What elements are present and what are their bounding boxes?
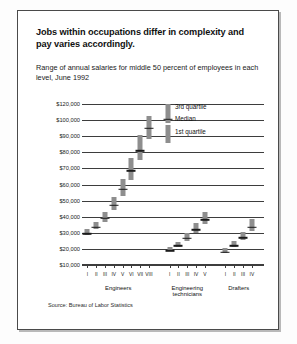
quartile-range-bar <box>202 212 207 224</box>
y-axis-label: $100,000 <box>36 117 80 123</box>
x-axis-tick <box>131 265 132 268</box>
median-marker <box>136 150 145 152</box>
legend-median-marker <box>164 118 173 120</box>
gridline <box>82 185 264 186</box>
x-axis-tick-label: V <box>121 272 124 277</box>
x-axis-tick-label: V <box>203 272 206 277</box>
median-marker <box>109 205 118 207</box>
x-axis-tick-label: VII <box>137 272 143 277</box>
x-axis-tick-label: II <box>233 272 236 277</box>
median-marker <box>83 233 92 235</box>
legend-range-bar <box>166 104 171 123</box>
x-axis-tick-label: I <box>225 272 226 277</box>
gridline <box>82 168 264 169</box>
x-axis-tick-label: I <box>87 272 88 277</box>
quartile-range-bar <box>111 197 116 211</box>
x-axis-tick <box>123 265 124 268</box>
y-axis-label: $80,000 <box>36 149 80 155</box>
legend-median: Median <box>175 114 196 121</box>
chart-plot: $120,000$100,000$90,000$80,000$70,000$60… <box>36 104 264 274</box>
x-axis-tick <box>96 265 97 268</box>
x-axis-group-label: Drafters <box>228 285 249 292</box>
x-axis-tick-label: I <box>169 272 170 277</box>
median-marker <box>144 127 153 129</box>
median-marker <box>221 251 230 253</box>
y-axis-label: $30,000 <box>36 230 80 236</box>
median-marker <box>165 250 174 252</box>
x-axis-group-label: Engineers <box>105 285 132 292</box>
gridline <box>82 120 264 121</box>
median-marker <box>174 245 183 247</box>
source-note: Source: Bureau of Labor Statistics <box>48 302 133 308</box>
median-marker <box>192 229 201 231</box>
median-marker <box>127 170 136 172</box>
x-axis-tick-label: VIII <box>145 272 152 277</box>
x-axis-tick-label: IV <box>250 272 255 277</box>
y-axis-label: $70,000 <box>36 165 80 171</box>
legend-range-bar-lower <box>166 125 171 143</box>
x-axis-tick <box>87 265 88 268</box>
quartile-range-bar <box>120 179 125 196</box>
y-axis-label: $90,000 <box>36 133 80 139</box>
x-axis-tick <box>114 265 115 268</box>
x-axis-group-label: Engineeringtechnicians <box>172 285 203 298</box>
x-axis-tick-label: III <box>185 272 189 277</box>
plot-axis-area: $120,000$100,000$90,000$80,000$70,000$60… <box>82 104 264 265</box>
chart-subtitle: Range of annual salaries for middle 50 p… <box>36 63 264 82</box>
x-axis-tick <box>252 265 253 268</box>
x-axis-tick <box>105 265 106 268</box>
x-axis-baseline <box>82 264 264 265</box>
y-axis-label: $20,000 <box>36 246 80 252</box>
x-axis-tick <box>225 265 226 268</box>
x-axis-tick-label: II <box>95 272 98 277</box>
gridline <box>82 233 264 234</box>
gridline <box>82 265 264 266</box>
x-axis-tick-label: II <box>177 272 180 277</box>
chart-panel: Jobs within occupations differ in comple… <box>17 10 279 330</box>
y-axis-label: $40,000 <box>36 214 80 220</box>
median-marker <box>118 189 127 191</box>
median-marker <box>200 219 209 221</box>
legend-third-quartile: 3rd quartile <box>175 102 207 109</box>
median-marker <box>92 226 101 228</box>
y-axis-label: $120,000 <box>36 101 80 107</box>
median-marker <box>247 226 256 228</box>
x-axis-tick-label: VI <box>129 272 134 277</box>
y-axis-label: $50,000 <box>36 198 80 204</box>
quartile-range-bar <box>129 158 134 180</box>
x-axis-tick-label: IV <box>112 272 117 277</box>
median-marker <box>230 245 239 247</box>
x-axis-tick <box>196 265 197 268</box>
x-axis-tick <box>205 265 206 268</box>
median-marker <box>101 217 110 219</box>
x-axis-tick <box>234 265 235 268</box>
x-axis-tick <box>140 265 141 268</box>
median-marker <box>239 237 248 239</box>
quartile-range-bar <box>249 219 254 231</box>
page-title: Jobs within occupations differ in comple… <box>36 27 262 50</box>
x-axis-tick-label: III <box>103 272 107 277</box>
quartile-range-bar <box>138 135 143 161</box>
y-axis-label: $10,000 <box>36 262 80 268</box>
legend-first-quartile: 1st quartile <box>175 128 206 135</box>
x-axis-tick <box>187 265 188 268</box>
x-axis-tick <box>170 265 171 268</box>
y-axis-label: $60,000 <box>36 182 80 188</box>
x-axis-tick-label: III <box>241 272 245 277</box>
x-axis-tick <box>243 265 244 268</box>
gridline <box>82 152 264 153</box>
gridline <box>82 104 264 105</box>
x-axis-tick <box>178 265 179 268</box>
chart-page: Jobs within occupations differ in comple… <box>0 0 297 344</box>
x-axis-tick <box>149 265 150 268</box>
median-marker <box>183 238 192 240</box>
x-axis-tick-label: IV <box>194 272 199 277</box>
gridline <box>82 136 264 137</box>
gridline <box>82 201 264 202</box>
